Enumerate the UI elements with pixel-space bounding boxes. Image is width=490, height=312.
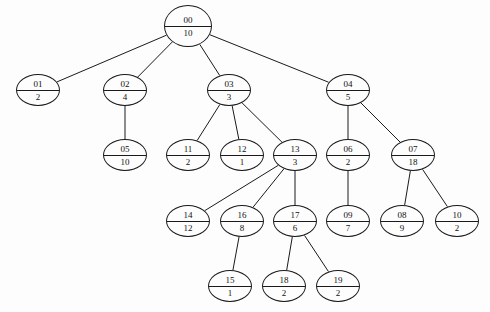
node-value-label: 18 bbox=[392, 156, 434, 167]
node-value-label: 2 bbox=[327, 156, 369, 167]
node-id-label: 05 bbox=[104, 144, 146, 155]
node-id-label: 13 bbox=[274, 144, 316, 155]
node-value-label: 2 bbox=[167, 156, 209, 167]
tree-node-02[interactable]: 024 bbox=[103, 74, 147, 106]
node-id-label: 01 bbox=[17, 79, 59, 90]
node-value-label: 3 bbox=[208, 91, 250, 102]
node-id-label: 15 bbox=[209, 275, 251, 286]
node-id-label: 10 bbox=[436, 210, 478, 221]
node-id-label: 09 bbox=[327, 210, 369, 221]
node-value-label: 1 bbox=[209, 287, 251, 298]
tree-node-09[interactable]: 097 bbox=[326, 205, 370, 237]
tree-node-00[interactable]: 0010 bbox=[164, 5, 212, 47]
tree-node-13[interactable]: 133 bbox=[273, 139, 317, 171]
tree-node-19[interactable]: 192 bbox=[316, 270, 360, 302]
node-value-label: 10 bbox=[165, 27, 211, 38]
node-value-label: 3 bbox=[274, 156, 316, 167]
tree-node-07[interactable]: 0718 bbox=[391, 139, 435, 171]
node-value-label: 4 bbox=[104, 91, 146, 102]
tree-node-08[interactable]: 089 bbox=[380, 205, 424, 237]
tree-node-14[interactable]: 1412 bbox=[166, 205, 210, 237]
node-id-label: 06 bbox=[327, 144, 369, 155]
tree-node-18[interactable]: 182 bbox=[262, 270, 306, 302]
node-id-label: 14 bbox=[167, 210, 209, 221]
node-layer: 0010012024033045051011212113306207181412… bbox=[0, 0, 490, 312]
node-id-label: 04 bbox=[327, 79, 369, 90]
node-id-label: 02 bbox=[104, 79, 146, 90]
node-value-label: 10 bbox=[104, 156, 146, 167]
node-id-label: 07 bbox=[392, 144, 434, 155]
node-id-label: 11 bbox=[167, 144, 209, 155]
node-id-label: 00 bbox=[165, 15, 211, 26]
tree-node-01[interactable]: 012 bbox=[16, 74, 60, 106]
node-id-label: 12 bbox=[221, 144, 263, 155]
node-value-label: 1 bbox=[221, 156, 263, 167]
tree-node-15[interactable]: 151 bbox=[208, 270, 252, 302]
node-value-label: 5 bbox=[327, 91, 369, 102]
tree-node-11[interactable]: 112 bbox=[166, 139, 210, 171]
tree-node-06[interactable]: 062 bbox=[326, 139, 370, 171]
node-id-label: 08 bbox=[381, 210, 423, 221]
tree-node-17[interactable]: 176 bbox=[273, 205, 317, 237]
node-id-label: 03 bbox=[208, 79, 250, 90]
node-value-label: 2 bbox=[436, 222, 478, 233]
tree-node-04[interactable]: 045 bbox=[326, 74, 370, 106]
node-id-label: 16 bbox=[221, 210, 263, 221]
node-value-label: 8 bbox=[221, 222, 263, 233]
tree-diagram: 0010012024033045051011212113306207181412… bbox=[0, 0, 490, 312]
node-id-label: 18 bbox=[263, 275, 305, 286]
tree-node-05[interactable]: 0510 bbox=[103, 139, 147, 171]
tree-node-10[interactable]: 102 bbox=[435, 205, 479, 237]
node-id-label: 19 bbox=[317, 275, 359, 286]
node-value-label: 2 bbox=[17, 91, 59, 102]
node-value-label: 2 bbox=[317, 287, 359, 298]
node-value-label: 7 bbox=[327, 222, 369, 233]
tree-node-03[interactable]: 033 bbox=[207, 74, 251, 106]
node-value-label: 12 bbox=[167, 222, 209, 233]
node-value-label: 6 bbox=[274, 222, 316, 233]
tree-node-12[interactable]: 121 bbox=[220, 139, 264, 171]
node-value-label: 9 bbox=[381, 222, 423, 233]
tree-node-16[interactable]: 168 bbox=[220, 205, 264, 237]
node-id-label: 17 bbox=[274, 210, 316, 221]
node-value-label: 2 bbox=[263, 287, 305, 298]
